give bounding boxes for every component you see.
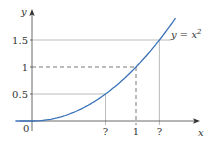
guide-lines	[32, 40, 171, 125]
curve-label: y = x2	[170, 28, 202, 40]
axes	[20, 9, 200, 131]
y-tick-label: 0.5	[12, 89, 28, 100]
labels: y x 0 y = x2	[20, 6, 204, 138]
y-axis-label: y	[20, 6, 27, 17]
y-tick-label: 1.5	[12, 35, 28, 46]
y-tick-label: 1	[22, 62, 28, 73]
x-tick-label: ?	[103, 126, 108, 137]
y-tick-labels: 0.511.5	[12, 35, 32, 100]
x-tick-labels: ?1?	[103, 126, 162, 137]
origin-label: 0	[23, 123, 29, 134]
x-axis-label: x	[198, 127, 204, 138]
x-tick-label: ?	[157, 126, 162, 137]
parabola-chart: y x 0 y = x2 0.511.5 ?1?	[0, 0, 211, 145]
curve-y-equals-x-squared	[15, 18, 175, 121]
x-tick-label: 1	[133, 126, 139, 137]
